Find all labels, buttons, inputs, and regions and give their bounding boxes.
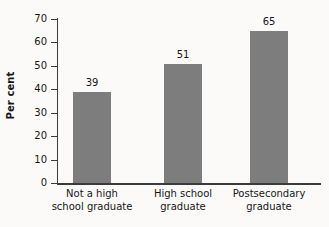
y-axis-tick <box>51 136 57 137</box>
y-axis-tick <box>51 183 57 184</box>
bar-value-label: 39 <box>63 78 121 88</box>
bar-value-label: 65 <box>240 17 298 27</box>
y-axis-tick-label: 20 <box>7 131 47 141</box>
bar-value-label: 51 <box>154 50 212 60</box>
y-axis-tick-label: 70 <box>7 14 47 24</box>
y-axis-tick-label: 10 <box>7 155 47 165</box>
x-axis-category-label-line: High school <box>133 188 233 201</box>
y-axis-tick <box>51 160 57 161</box>
y-axis-tick <box>51 42 57 43</box>
y-axis-tick <box>51 113 57 114</box>
x-axis-category-label: Not a highschool graduate <box>42 188 142 214</box>
y-axis-tick <box>51 66 57 67</box>
x-axis-spine <box>57 183 321 185</box>
x-axis-category-label: High schoolgraduate <box>133 188 233 214</box>
x-axis-category-label-line: graduate <box>133 201 233 214</box>
y-axis-tick-label: 40 <box>7 84 47 94</box>
bar <box>250 31 288 183</box>
bar <box>73 92 111 183</box>
y-axis-tick <box>51 19 57 20</box>
y-axis-spine <box>57 18 58 184</box>
bar-chart-figure: Per cent 010203040506070 395165 Not a hi… <box>0 0 329 227</box>
x-axis-category-label-line: graduate <box>219 201 319 214</box>
bar <box>164 64 202 183</box>
x-axis-category-label-line: school graduate <box>42 201 142 214</box>
x-axis-category-label-line: Not a high <box>42 188 142 201</box>
y-axis-tick-label: 50 <box>7 61 47 71</box>
y-axis-tick-label: 60 <box>7 37 47 47</box>
y-axis-tick <box>51 89 57 90</box>
x-axis-category-label: Postsecondarygraduate <box>219 188 319 214</box>
y-axis-tick-label: 0 <box>7 178 47 188</box>
x-axis-category-label-line: Postsecondary <box>219 188 319 201</box>
y-axis-tick-label: 30 <box>7 108 47 118</box>
